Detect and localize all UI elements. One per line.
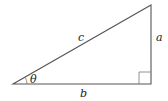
right-triangle-diagram: c a b θ: [0, 0, 168, 101]
right-angle-marker: [139, 72, 151, 84]
label-angle-theta: θ: [30, 73, 37, 86]
label-side-b: b: [80, 87, 87, 100]
angle-arc: [25, 77, 27, 84]
label-hypotenuse-c: c: [78, 31, 84, 44]
label-side-a: a: [156, 31, 163, 44]
